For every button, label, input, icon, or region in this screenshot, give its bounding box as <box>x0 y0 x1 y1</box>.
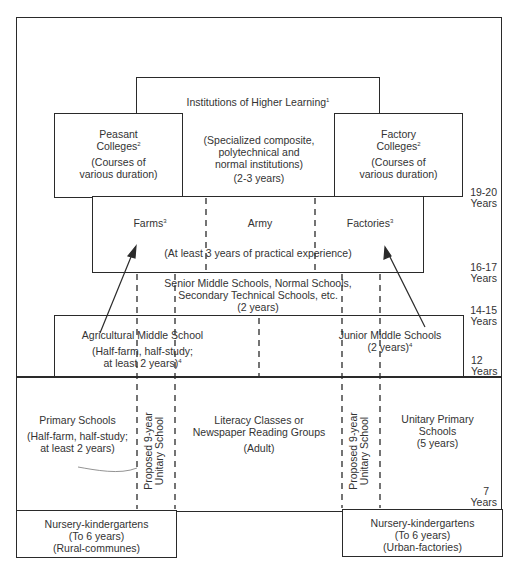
factories-label: Factories3 <box>330 217 410 229</box>
junior-middle-text: Junior Middle Schools (2 years)4 <box>330 329 450 353</box>
peasant-colleges-text: Peasant Colleges2 (Courses of various du… <box>54 128 183 180</box>
age-label-16-17: 16-17Years <box>462 262 497 284</box>
higher-learning-desc: (Specialized composite, polytechnical an… <box>183 134 335 184</box>
agricultural-middle-text: Agricultural Middle School (Half-farm, h… <box>60 329 225 369</box>
literacy-text: Literacy Classes or Newspaper Reading Gr… <box>180 414 338 454</box>
nursery-rural-text: Nursery-kindergartens (To 6 years) (Rura… <box>16 518 177 554</box>
age-label-7: 7Years <box>462 486 497 508</box>
proposed-unitary-right: Proposed 9-year Unitary School <box>348 406 374 496</box>
higher-learning-title: Institutions of Higher Learning1 <box>136 96 380 108</box>
age-label-12: 12Years <box>462 355 497 377</box>
senior-middle-text: Senior Middle Schools, Normal Schools, S… <box>150 277 366 313</box>
farms-label: Farms3 <box>110 217 190 229</box>
primary-schools-text: Primary Schools (Half-farm, half-study; … <box>20 414 135 454</box>
proposed-unitary-left: Proposed 9-year Unitary School <box>143 406 169 496</box>
age-label-14-15: 14-15Years <box>462 305 497 327</box>
nursery-urban-text: Nursery-kindergartens (To 6 years) (Urba… <box>342 517 503 553</box>
factory-colleges-text: Factory Colleges2 (Courses of various du… <box>334 128 463 180</box>
practical-desc: (At least 3 years of practical experienc… <box>92 247 424 259</box>
age-label-19-20: 19-20Years <box>462 187 497 209</box>
unitary-primary-text: Unitary Primary Schools (5 years) <box>385 413 490 449</box>
army-label: Army <box>220 217 300 229</box>
